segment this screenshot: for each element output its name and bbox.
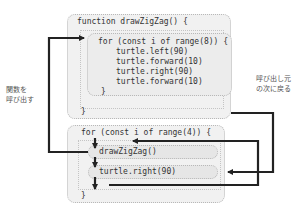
call-arrow: [49, 38, 88, 152]
loop-back-arrow: [109, 141, 258, 185]
return-arrow: [228, 113, 273, 172]
flow-arrows: [0, 0, 303, 214]
